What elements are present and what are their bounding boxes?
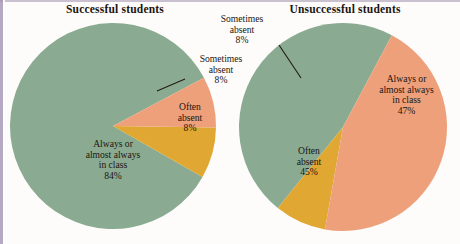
- slice-label-right-often: Often absent 45%: [274, 146, 344, 178]
- slice-label-percent: 47%: [354, 106, 459, 117]
- slice-label-line2: absent: [230, 24, 255, 35]
- figure-canvas: Successful students Unsuccessful student…: [0, 0, 460, 244]
- slice-label-line1: Always or: [387, 73, 427, 84]
- pie-chart-unsuccessful: [239, 23, 447, 231]
- slice-label-left-sometimes: Sometimes absent 8%: [186, 54, 256, 86]
- slice-label-percent: 45%: [274, 167, 344, 178]
- slice-label-right-always: Always or almost always in class 47%: [354, 74, 459, 116]
- slice-label-percent: 8%: [160, 123, 220, 134]
- slice-label-line2: absent: [297, 156, 322, 167]
- slice-label-line1: Sometimes: [221, 13, 264, 24]
- chart-title-successful: Successful students: [0, 3, 230, 15]
- slice-label-percent: 8%: [186, 75, 256, 86]
- slice-label-line2: absent: [178, 112, 203, 123]
- slice-label-line1: Often: [179, 101, 201, 112]
- slice-label-line1: Sometimes: [200, 53, 243, 64]
- slice-label-line2: almost always: [379, 84, 434, 95]
- slice-label-line3: in class: [99, 159, 128, 170]
- slice-label-percent: 84%: [48, 171, 178, 182]
- slice-label-percent: 8%: [207, 35, 277, 46]
- slice-label-left-often: Often absent 8%: [160, 102, 220, 134]
- slice-label-line2: absent: [209, 64, 234, 75]
- slice-label-line1: Often: [298, 145, 320, 156]
- slice-label-line2: almost always: [86, 149, 141, 160]
- slice-label-line3: in class: [392, 94, 421, 105]
- slice-label-right-sometimes: Sometimes absent 8%: [207, 14, 277, 46]
- slice-label-left-always: Always or almost always in class 84%: [48, 139, 178, 181]
- slice-label-line1: Always or: [93, 138, 133, 149]
